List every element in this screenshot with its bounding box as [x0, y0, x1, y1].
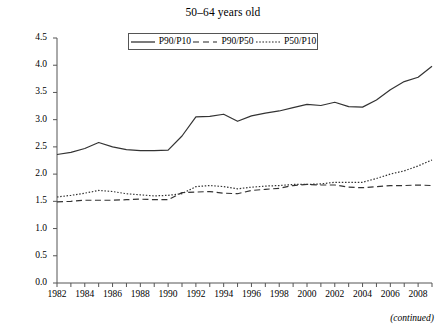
- y-tick-label: 0.5: [21, 251, 47, 261]
- y-tick-marks: [53, 38, 57, 283]
- y-tick-label: 4.0: [21, 60, 47, 70]
- series-line-p90-p50: [57, 184, 432, 201]
- plot-area: [0, 0, 446, 332]
- series-line-p50-p10: [57, 160, 432, 197]
- x-tick-marks: [57, 283, 432, 287]
- series-line-p90-p10: [57, 66, 432, 154]
- y-tick-label: 1.5: [21, 196, 47, 206]
- continued-note: (continued): [390, 313, 434, 323]
- axis-lines: [57, 38, 432, 283]
- figure-container: 50–64 years old P90/P10 P90/P50 P50/P10: [0, 0, 446, 332]
- y-tick-label: 3.0: [21, 115, 47, 125]
- y-tick-label: 3.5: [21, 87, 47, 97]
- data-series-group: [57, 66, 432, 202]
- y-tick-label: 1.0: [21, 224, 47, 234]
- y-tick-label: 2.0: [21, 169, 47, 179]
- y-tick-label: 4.5: [21, 33, 47, 43]
- y-tick-label: 2.5: [21, 142, 47, 152]
- x-tick-label: 2008: [398, 290, 438, 300]
- y-tick-label: 0.0: [21, 278, 47, 288]
